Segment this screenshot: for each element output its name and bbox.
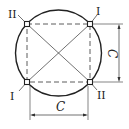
arrowhead	[118, 24, 121, 29]
arrowhead	[83, 114, 88, 117]
dimension-label-vertical: C	[105, 49, 119, 58]
hole-marker-bottom-right	[88, 80, 93, 85]
diagram-canvas: II I I II C C	[0, 0, 129, 129]
label-bottom-right: II	[97, 89, 106, 102]
hole-marker-top-left	[25, 22, 30, 27]
dimension-label-horizontal: C	[56, 100, 65, 114]
label-top-left: II	[8, 8, 17, 21]
hole-marker-bottom-left	[25, 80, 30, 85]
bolt-pattern-diagram: II I I II C C	[0, 0, 129, 129]
arrowhead	[118, 77, 121, 82]
hole-marker-top-right	[88, 22, 93, 27]
label-top-right: I	[96, 5, 100, 18]
label-bottom-left: I	[10, 90, 14, 103]
arrowhead	[30, 114, 35, 117]
